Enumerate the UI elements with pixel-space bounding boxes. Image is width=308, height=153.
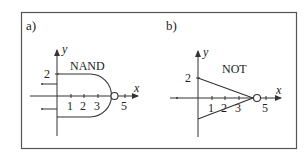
panel-a-x-tick-label: 1 <box>67 99 73 113</box>
panel-b-x-tick-label: 5 <box>262 101 268 115</box>
panel-a-nand: a) y x 1 2 3 5 2 NAND <box>26 18 140 136</box>
panel-a-x-tick-label: 2 <box>80 99 86 113</box>
panel-a-x-tick-label: 5 <box>121 99 127 113</box>
nand-input-2-terminal <box>41 108 43 110</box>
not-output-bubble <box>254 95 261 102</box>
panel-b-y-tick-label: 2 <box>185 71 191 85</box>
panel-b-not: b) y x 1 2 3 5 2 NOT <box>166 18 282 137</box>
nand-output-bubble <box>111 93 118 100</box>
nand-gate-label: NAND <box>70 59 105 73</box>
panel-a-y-axis-label: y <box>61 42 68 56</box>
figure-frame <box>22 13 297 149</box>
panel-a-label: a) <box>26 18 36 33</box>
not-gate-label: NOT <box>222 62 247 76</box>
panel-b-label: b) <box>166 18 177 33</box>
panel-b-x-axis-label: x <box>275 83 282 97</box>
panel-a-x-axis-label: x <box>133 81 140 95</box>
panel-a-y-tick-label: 2 <box>44 67 50 81</box>
nand-input-1-terminal <box>41 83 43 85</box>
not-input-terminal <box>176 97 178 99</box>
panel-a-x-tick-label: 3 <box>94 99 100 113</box>
gate-diagram-figure: a) y x 1 2 3 5 2 NAND b) y <box>0 0 308 153</box>
panel-b-y-axis-label: y <box>202 45 209 59</box>
